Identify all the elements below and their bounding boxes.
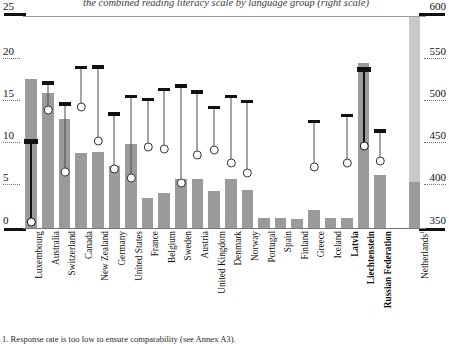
percentage-bar[interactable] <box>291 219 303 228</box>
range-high-marker <box>24 139 38 144</box>
score-range-marker[interactable] <box>42 17 54 228</box>
bar-column <box>242 17 254 228</box>
category-label: United Kingdom <box>218 231 227 294</box>
range-connector-line <box>47 83 48 107</box>
score-range-marker[interactable] <box>175 17 187 228</box>
bar-column <box>75 17 87 228</box>
bar-column <box>341 17 353 228</box>
range-low-marker <box>243 169 252 178</box>
range-connector-line <box>313 122 314 165</box>
category-label: Liechtenstein <box>367 231 376 284</box>
score-range-marker[interactable] <box>242 17 254 228</box>
category-label: France <box>151 231 160 256</box>
range-high-marker <box>108 112 120 116</box>
bar-column <box>358 17 370 228</box>
range-low-marker <box>193 151 202 160</box>
category-label: Sweden <box>184 231 193 260</box>
range-high-marker <box>42 81 54 85</box>
score-range-marker[interactable] <box>75 17 87 228</box>
score-range-marker[interactable] <box>92 17 104 228</box>
bar-column <box>175 17 187 228</box>
range-low-marker <box>27 218 36 227</box>
plot-baseline <box>23 228 426 229</box>
range-low-marker <box>127 174 136 183</box>
bar-column <box>25 17 37 228</box>
percentage-bar[interactable] <box>275 218 287 228</box>
bar-column <box>258 17 270 228</box>
range-connector-line <box>380 131 381 159</box>
score-range-marker[interactable] <box>109 17 121 228</box>
left-axis-tick-20: 20 <box>3 46 23 62</box>
range-connector-line <box>197 92 198 153</box>
category-label: Finland <box>301 231 310 259</box>
score-range-marker[interactable] <box>125 17 137 228</box>
score-range-marker[interactable] <box>358 17 370 228</box>
range-connector-line <box>114 114 115 166</box>
range-connector-line <box>363 70 365 143</box>
score-range-marker[interactable] <box>142 17 154 228</box>
range-high-marker <box>191 90 203 94</box>
score-range-marker[interactable] <box>225 17 237 228</box>
bar-column <box>308 17 320 228</box>
range-connector-line <box>147 100 148 145</box>
range-high-marker <box>241 100 253 104</box>
score-range-marker[interactable] <box>341 17 353 228</box>
range-high-marker <box>75 66 87 70</box>
range-low-marker <box>376 157 385 166</box>
range-high-marker <box>341 114 353 118</box>
score-range-marker[interactable] <box>59 17 71 228</box>
score-range-marker[interactable] <box>374 17 386 228</box>
category-label: Netherlands1 <box>418 231 430 279</box>
right-axis-tick-600: 600 <box>418 1 446 12</box>
range-connector-line <box>164 90 165 147</box>
range-high-marker <box>158 88 170 92</box>
range-high-marker <box>59 102 71 106</box>
bar-column <box>275 17 287 228</box>
range-connector-line <box>131 96 132 175</box>
range-connector-line <box>97 67 98 139</box>
left-axis-tick-10: 10 <box>3 130 23 146</box>
percentage-bar[interactable] <box>258 218 270 228</box>
range-low-marker <box>60 168 69 177</box>
plot-area <box>23 17 426 228</box>
range-high-marker <box>225 95 237 99</box>
range-connector-line <box>30 142 32 220</box>
range-low-marker <box>110 164 119 173</box>
range-high-marker <box>357 67 371 72</box>
category-label: Norway <box>251 231 260 261</box>
chart-title: the combined reading literacy scale by l… <box>46 0 406 9</box>
range-connector-line <box>81 68 82 105</box>
percentage-bar[interactable] <box>409 182 421 228</box>
score-range-marker[interactable] <box>192 17 204 228</box>
score-range-marker[interactable] <box>208 17 220 228</box>
category-label: Belgium <box>168 231 177 263</box>
range-high-marker <box>208 106 220 110</box>
category-label: Spain <box>284 231 293 252</box>
category-label: Iceland <box>334 231 343 258</box>
category-label: Germany <box>118 231 127 266</box>
percentage-bar[interactable] <box>325 218 337 228</box>
range-high-marker <box>142 98 154 102</box>
category-label: United States <box>135 231 144 281</box>
range-low-marker <box>94 137 103 146</box>
bar-column <box>158 17 170 228</box>
category-label: Denmark <box>234 231 243 266</box>
bar-column <box>225 17 237 228</box>
range-high-marker <box>175 84 187 88</box>
range-connector-line <box>247 101 248 170</box>
score-range-marker[interactable] <box>308 17 320 228</box>
range-low-marker <box>227 158 236 167</box>
range-high-marker <box>374 129 386 133</box>
left-axis-tick-15: 15 <box>3 88 23 104</box>
range-low-marker <box>343 158 352 167</box>
range-low-marker <box>77 103 86 112</box>
score-range-marker[interactable] <box>25 17 37 228</box>
range-high-marker <box>125 95 137 99</box>
score-range-marker[interactable] <box>158 17 170 228</box>
category-label: Australia <box>52 231 61 265</box>
range-low-marker <box>143 142 152 151</box>
bar-column <box>142 17 154 228</box>
bar-column <box>192 17 204 228</box>
range-low-marker <box>44 105 53 114</box>
